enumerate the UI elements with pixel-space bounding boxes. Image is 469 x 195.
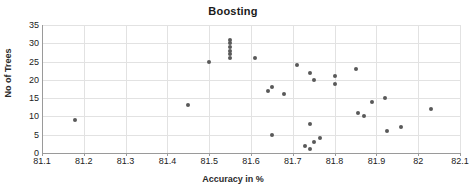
y-tick-label: 5 <box>3 130 39 140</box>
y-axis-line <box>42 25 43 154</box>
x-axis-title: Accuracy in % <box>0 174 466 184</box>
x-tick-label: 82.1 <box>451 156 469 166</box>
data-point <box>385 129 389 133</box>
data-point <box>266 89 270 93</box>
data-point <box>73 118 77 122</box>
data-point <box>399 125 403 129</box>
data-point <box>333 74 337 78</box>
x-tick-label: 81.4 <box>159 156 177 166</box>
x-axis-ticks: 81.181.281.381.481.581.681.781.881.98282… <box>42 156 460 172</box>
data-point <box>228 52 232 56</box>
data-point <box>318 136 322 140</box>
data-point <box>356 111 360 115</box>
data-point <box>308 147 312 151</box>
data-point <box>308 71 312 75</box>
gridline-vertical <box>293 25 294 153</box>
x-tick-label: 81.3 <box>117 156 135 166</box>
x-tick-mark <box>418 153 419 156</box>
data-point <box>228 56 232 60</box>
x-tick-mark <box>167 153 168 156</box>
x-tick-mark <box>126 153 127 156</box>
chart-title: Boosting <box>0 5 466 17</box>
data-point <box>312 140 316 144</box>
data-point <box>362 114 366 118</box>
gridline-vertical <box>376 25 377 153</box>
gridline-vertical <box>209 25 210 153</box>
x-tick-mark <box>42 153 43 156</box>
data-point <box>186 103 190 107</box>
data-point <box>383 96 387 100</box>
data-point <box>253 56 257 60</box>
x-tick-label: 82 <box>413 156 423 166</box>
y-tick-label: 15 <box>3 93 39 103</box>
x-tick-label: 81.2 <box>75 156 93 166</box>
data-point <box>333 82 337 86</box>
x-tick-mark <box>376 153 377 156</box>
x-tick-label: 81.6 <box>242 156 260 166</box>
x-tick-mark <box>335 153 336 156</box>
x-tick-label: 81.8 <box>326 156 344 166</box>
data-point <box>207 60 211 64</box>
x-tick-label: 81.5 <box>200 156 218 166</box>
y-tick-label: 35 <box>3 20 39 30</box>
x-tick-label: 81.9 <box>368 156 386 166</box>
data-point <box>308 122 312 126</box>
y-tick-label: 10 <box>3 111 39 121</box>
data-point <box>282 92 286 96</box>
data-point <box>295 63 299 67</box>
plot-area <box>42 25 460 153</box>
data-point <box>303 144 307 148</box>
y-tick-label: 20 <box>3 75 39 85</box>
y-tick-label: 25 <box>3 57 39 67</box>
gridline-vertical <box>418 25 419 153</box>
x-tick-mark <box>84 153 85 156</box>
data-point <box>228 38 232 42</box>
gridline-vertical <box>167 25 168 153</box>
data-point <box>270 133 274 137</box>
data-point <box>228 41 232 45</box>
y-tick-label: 30 <box>3 38 39 48</box>
gridline-vertical <box>126 25 127 153</box>
x-tick-mark <box>293 153 294 156</box>
data-point <box>429 107 433 111</box>
data-point <box>370 100 374 104</box>
data-point <box>354 67 358 71</box>
y-axis-ticks: 05101520253035 <box>0 25 39 153</box>
x-tick-label: 81.1 <box>33 156 51 166</box>
gridline-vertical <box>84 25 85 153</box>
x-tick-mark <box>460 153 461 156</box>
x-tick-mark <box>209 153 210 156</box>
gridline-vertical <box>335 25 336 153</box>
x-tick-label: 81.7 <box>284 156 302 166</box>
data-point <box>228 45 232 49</box>
data-point <box>312 78 316 82</box>
gridline-vertical <box>251 25 252 153</box>
data-point <box>270 85 274 89</box>
x-tick-mark <box>251 153 252 156</box>
data-point <box>228 49 232 53</box>
gridline-vertical <box>460 25 461 153</box>
